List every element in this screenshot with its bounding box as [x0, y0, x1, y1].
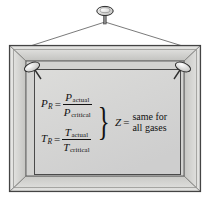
poster-content: PR = Pactual Pcritical TR = Tactual Tcri… — [36, 70, 180, 174]
grouping-brace: } — [97, 106, 109, 138]
conclusion-line-1: same for — [132, 111, 167, 122]
reduced-temperature-equation: TR = Tactual Tcritical — [41, 127, 92, 153]
fraction-denominator: Tcritical — [62, 140, 90, 153]
pressure-fraction: Pactual Pcritical — [63, 92, 92, 118]
conclusion: Z = same for all gases — [115, 111, 167, 133]
conclusion-line-2: all gases — [132, 122, 166, 133]
temperature-fraction: Tactual Tcritical — [62, 127, 90, 153]
equals-sign: = — [121, 116, 132, 128]
fraction-numerator: Pactual — [64, 92, 90, 105]
reduced-pressure-lhs: PR — [41, 98, 54, 111]
conclusion-text: same for all gases — [132, 111, 167, 133]
fraction-denominator: Pcritical — [63, 105, 92, 118]
nail-icon — [97, 6, 113, 24]
reduced-pressure-equation: PR = Pactual Pcritical — [41, 92, 92, 118]
reduced-temperature-lhs: TR — [41, 133, 53, 146]
equals-sign: = — [53, 134, 62, 145]
hanging-wire — [24, 22, 189, 48]
equation-column: PR = Pactual Pcritical TR = Tactual Tcri… — [41, 92, 92, 153]
equals-sign: = — [54, 99, 63, 110]
fraction-numerator: Tactual — [64, 127, 90, 140]
equation-group: PR = Pactual Pcritical TR = Tactual Tcri… — [41, 92, 167, 153]
figure-canvas: PR = Pactual Pcritical TR = Tactual Tcri… — [0, 0, 210, 203]
